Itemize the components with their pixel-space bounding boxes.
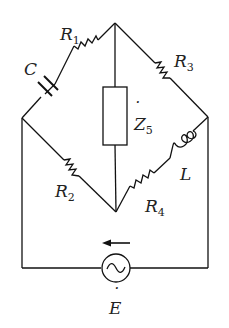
resistor-r2-icon <box>64 159 79 176</box>
label-l: L <box>179 164 191 184</box>
label-r2: R2 <box>54 181 75 204</box>
label-z5-dot: ˙ <box>132 98 141 118</box>
current-arrow-icon <box>102 240 130 247</box>
inductor-l-icon <box>170 131 196 158</box>
label-r3: R3 <box>173 51 194 74</box>
label-e-dot: ˙ <box>111 284 120 304</box>
label-r4: R4 <box>144 196 165 219</box>
branch-bottom-right <box>116 117 208 212</box>
resistor-r3-icon <box>155 62 170 78</box>
branch-center-z5 <box>103 23 127 212</box>
resistor-r4-icon <box>130 170 154 188</box>
impedance-z5-icon <box>103 87 127 145</box>
label-r1: R1 <box>59 24 80 47</box>
source-loop <box>22 117 208 282</box>
branch-top-right <box>115 23 208 117</box>
label-c: C <box>24 59 37 79</box>
bridge-circuit-diagram: R1 C R3 Z5 ˙ R2 R4 L E ˙ <box>0 0 229 328</box>
